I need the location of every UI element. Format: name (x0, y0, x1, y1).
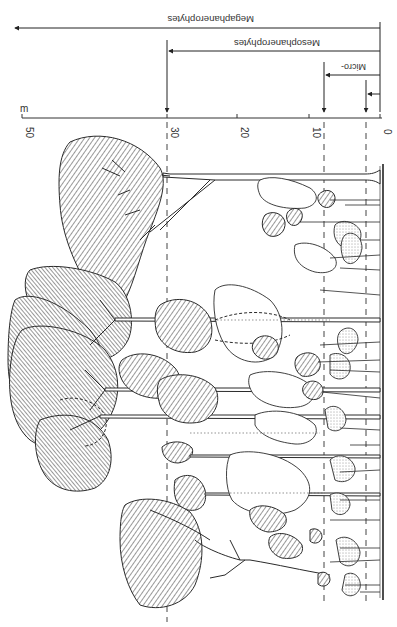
tree-branch (195, 540, 330, 578)
tree-crown (310, 529, 322, 543)
stem (320, 290, 380, 295)
tree-crown (303, 381, 323, 399)
axis-unit-label: m (20, 103, 28, 114)
axis-tick-label-30: 30 (169, 127, 180, 139)
axis-tick-label-10: 10 (311, 127, 322, 139)
shrub-crown (258, 178, 317, 209)
tree-crown (318, 572, 330, 586)
tree-crown (252, 336, 278, 359)
stem (340, 268, 380, 270)
axis-tick-label-50: 50 (24, 127, 35, 139)
tree-crown (162, 442, 193, 463)
stippled-shrub (330, 353, 350, 378)
height-axis: m 0 10 20 30 50 (20, 103, 393, 139)
stippled-shrub (342, 573, 360, 596)
mega-label: Megaphanerophytes (167, 14, 254, 25)
shrub-crown (226, 452, 309, 515)
forest-profile-diagram: m 0 10 20 30 50 Micro- Mesophanerophytes… (0, 0, 397, 627)
tree-crown (287, 208, 303, 225)
tree-crown (120, 499, 202, 608)
stippled-shrub (338, 328, 358, 354)
micro-label: Micro- (341, 62, 366, 72)
tree-crown (155, 299, 212, 352)
stippled-shrub (325, 406, 346, 430)
stippled-shrub (330, 456, 355, 482)
tree-crown (295, 353, 320, 377)
stem (322, 392, 380, 398)
axis-tick-label-20: 20 (239, 127, 250, 139)
stem (340, 428, 380, 430)
stippled-shrub (341, 233, 362, 263)
tree-trunk (190, 455, 380, 458)
axis-tick-label-0: 0 (382, 129, 393, 135)
stippled-low-shrubs (325, 221, 362, 595)
height-class-brackets: Micro- Mesophanerophytes Megaphanerophyt… (15, 14, 380, 112)
tree-crown (269, 534, 303, 559)
meso-label: Mesophanerophytes (234, 38, 320, 49)
ground (380, 164, 383, 600)
tree-crown (174, 475, 205, 510)
tree-crown (262, 213, 285, 237)
tree-crown (318, 190, 335, 207)
